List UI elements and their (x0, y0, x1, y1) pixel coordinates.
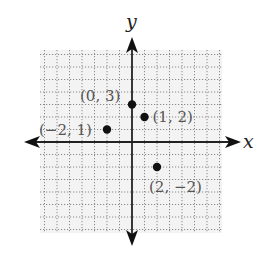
point-label: (0, 3) (80, 87, 120, 105)
point-label: (2, −2) (149, 178, 202, 196)
point-label: (−2, 1) (39, 121, 92, 139)
point-label: (1, 2) (153, 108, 193, 126)
data-point (140, 113, 148, 121)
coordinate-plane: x y (0, 3)(1, 2)(−2, 1)(2, −2) (0, 0, 259, 260)
x-axis-label: x (243, 130, 254, 152)
data-point (153, 163, 161, 171)
y-axis-label: y (125, 10, 137, 32)
data-point (103, 125, 111, 133)
data-point (128, 100, 136, 108)
